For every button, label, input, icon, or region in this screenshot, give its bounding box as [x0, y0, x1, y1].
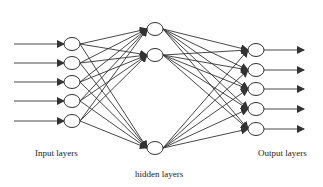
output-node: [248, 83, 264, 96]
input-hidden-edge: [80, 44, 147, 148]
hidden-output-edge: [163, 29, 248, 70]
hidden-output-edge: [163, 29, 248, 129]
hidden-node: [147, 49, 163, 62]
input-node: [64, 57, 80, 70]
hidden-output-edge: [163, 89, 248, 148]
network-graph: [0, 0, 323, 187]
hidden-output-edge: [163, 29, 248, 89]
hidden-output-edge: [163, 50, 248, 148]
input-node: [64, 38, 80, 51]
hidden-output-edge: [163, 55, 248, 129]
input-node: [64, 95, 80, 108]
hidden-output-edge: [163, 29, 248, 109]
hidden-node: [147, 142, 163, 155]
output-layer-label: Output layers: [258, 148, 307, 158]
output-node: [248, 123, 264, 136]
neural-network-diagram: Input layers hidden layers Output layers: [0, 0, 323, 187]
output-node: [248, 64, 264, 77]
input-hidden-edge: [80, 121, 147, 148]
input-node: [64, 115, 80, 128]
hidden-output-edge: [163, 55, 248, 89]
hidden-output-edge: [163, 50, 248, 55]
input-layer-label: Input layers: [35, 148, 78, 158]
output-node: [248, 103, 264, 116]
hidden-output-edge: [163, 55, 248, 70]
input-hidden-edge: [80, 82, 147, 148]
output-node: [248, 44, 264, 57]
hidden-output-edge: [163, 129, 248, 148]
hidden-node: [147, 23, 163, 36]
hidden-output-edge: [163, 29, 248, 50]
input-hidden-edge: [80, 29, 147, 121]
hidden-output-edge: [163, 109, 248, 148]
input-hidden-edge: [80, 101, 147, 148]
input-node: [64, 76, 80, 89]
hidden-layer-label: hidden layers: [135, 169, 183, 179]
